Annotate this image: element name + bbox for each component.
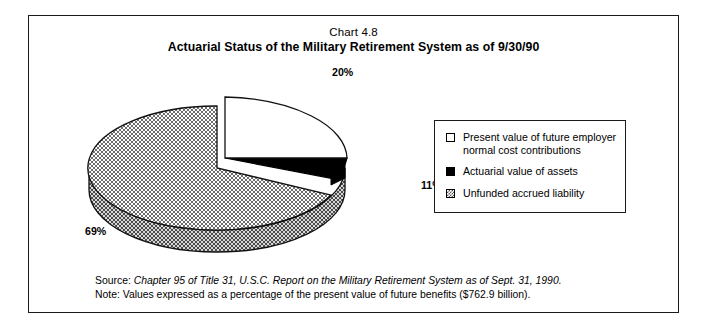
- legend-label-present-value: Present value of future employer normal …: [463, 131, 623, 157]
- footnote-source-prefix: Source:: [95, 275, 131, 286]
- footnote-note-prefix: Note:: [95, 289, 120, 300]
- pie-slice-gray-top: [88, 106, 331, 230]
- slice-label-gray-69: 69%: [85, 225, 106, 237]
- pie-slice-black-depth: [331, 156, 345, 185]
- legend-label-unfunded-liability: Unfunded accrued liability: [463, 187, 584, 200]
- chart-figure-frame: Chart 4.8 Actuarial Status of the Milita…: [28, 15, 679, 313]
- legend-swatch-gray-checker-square: [446, 189, 455, 198]
- footnote-note: Note: Values expressed as a percentage o…: [95, 288, 615, 302]
- legend-swatch-white-square: [446, 133, 455, 142]
- footnote-note-body: Values expressed as a percentage of the …: [123, 289, 531, 300]
- pie-slice-white-top: [225, 97, 347, 158]
- chart-footnotes: Source: Chapter 95 of Title 31, U.S.C. R…: [95, 274, 615, 302]
- footnote-source-body: Chapter 95 of Title 31, U.S.C. Report on…: [134, 275, 562, 286]
- pie-slice-black-top: [225, 158, 347, 179]
- legend-swatch-black-square: [446, 167, 455, 176]
- page-title: Actuarial Status of the Military Retirem…: [29, 40, 678, 55]
- legend-item-present-value: Present value of future employer normal …: [446, 131, 623, 157]
- pie-chart-svg: [59, 61, 419, 276]
- legend-label-actuarial-value: Actuarial value of assets: [463, 165, 578, 178]
- footnote-source: Source: Chapter 95 of Title 31, U.S.C. R…: [95, 274, 615, 288]
- chart-legend: Present value of future employer normal …: [434, 120, 626, 213]
- slice-label-white-20: 20%: [332, 66, 353, 78]
- chart-title-block: Chart 4.8 Actuarial Status of the Milita…: [29, 25, 678, 55]
- chart-number: Chart 4.8: [29, 25, 678, 39]
- pie-slice-gray-depth: [89, 168, 345, 252]
- legend-item-actuarial-value: Actuarial value of assets: [446, 165, 578, 178]
- legend-item-unfunded-liability: Unfunded accrued liability: [446, 187, 584, 200]
